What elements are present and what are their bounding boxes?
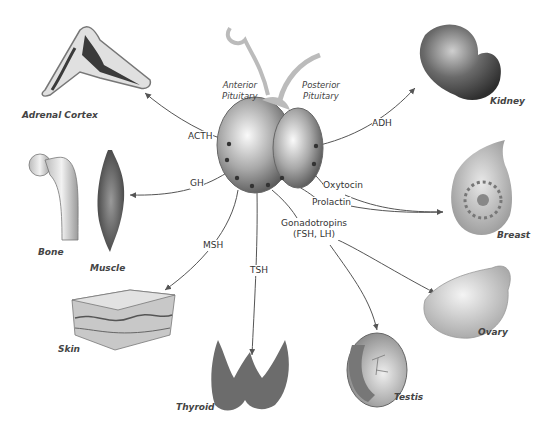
hormone-msh: MSH (203, 240, 223, 251)
anterior-pituitary-label: Anterior Pituitary (222, 80, 258, 102)
gonadotropins-line1: Gonadotropins (281, 218, 347, 229)
msh-path (165, 190, 238, 290)
ovary-path (338, 240, 435, 293)
diagram-canvas (0, 0, 541, 432)
muscle-illustration (98, 150, 125, 252)
target-thyroid: Thyroid (176, 402, 215, 412)
skin-illustration (72, 290, 175, 350)
anterior-label-line1: Anterior (222, 80, 258, 91)
adrenal-cortex-illustration (42, 27, 150, 96)
target-testis: Testis (394, 392, 423, 402)
pituitary-gland (217, 97, 323, 193)
hormone-oxytocin: Oxytocin (323, 180, 363, 191)
hormone-acth: ACTH (188, 131, 213, 142)
hormone-prolactin: Prolactin (312, 197, 351, 208)
hormone-adh: ADH (372, 118, 392, 129)
breast-illustration (451, 140, 512, 235)
target-breast: Breast (497, 230, 530, 240)
bone-illustration (29, 154, 78, 240)
gonadotropins-line2: (FSH, LH) (281, 229, 347, 240)
testis-path (330, 245, 377, 330)
target-muscle: Muscle (90, 263, 125, 273)
anterior-label-line2: Pituitary (222, 91, 258, 102)
hormone-gonadotropins: Gonadotropins (FSH, LH) (281, 218, 347, 240)
acth-path (145, 93, 225, 140)
target-ovary: Ovary (478, 327, 508, 337)
hormone-gh: GH (190, 178, 204, 189)
posterior-pituitary-label: Posterior Pituitary (302, 80, 340, 102)
target-skin: Skin (58, 344, 80, 354)
gh-path (130, 172, 228, 195)
pituitary-hormone-diagram: Anterior Pituitary Posterior Pituitary A… (0, 0, 541, 432)
kidney-illustration (420, 25, 501, 100)
posterior-label-line2: Pituitary (302, 91, 340, 102)
oxytocin-path (345, 195, 443, 212)
thyroid-illustration (211, 340, 289, 410)
target-adrenal-cortex: Adrenal Cortex (22, 110, 98, 120)
posterior-label-line1: Posterior (302, 80, 340, 91)
hormone-tsh: TSH (250, 265, 268, 276)
target-kidney: Kidney (490, 96, 525, 106)
target-bone: Bone (38, 247, 64, 257)
